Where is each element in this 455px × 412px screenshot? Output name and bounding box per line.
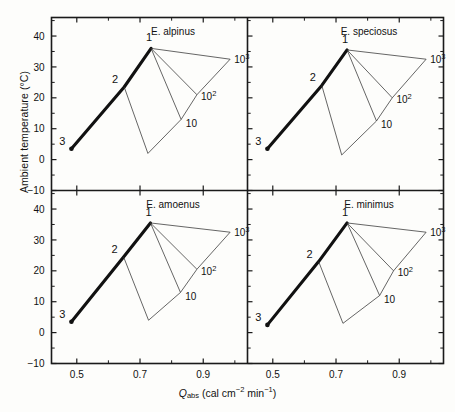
wind-label-10e2: 102 [396, 92, 411, 105]
y-axis-tick-label: 0 [39, 154, 45, 165]
endpoint-dot [265, 146, 270, 151]
y-axis-label: Ambient temperature (°C) [18, 52, 30, 212]
panel-amoenus: E. amoenus32110102103 [59, 199, 249, 325]
series-fan-1-to-10 [347, 223, 380, 296]
wind-label-10: 10 [185, 291, 197, 302]
y-axis-tick-label: 40 [33, 204, 45, 215]
y-axis-tick-label: 30 [33, 235, 45, 246]
series-metabolic-boundary [71, 223, 150, 322]
panel-alpinus: E. alpinus32110102103 [59, 26, 249, 154]
series-fan-1-to-10squared [150, 223, 196, 269]
endpoint-dot [69, 146, 74, 151]
node-label-1: 1 [146, 31, 152, 43]
series-fan-1-to-10cubed [151, 48, 230, 59]
series-fan-1-to-10squared [347, 50, 392, 98]
node-label-2: 2 [112, 73, 118, 85]
y-axis-tick-label: 40 [33, 31, 45, 42]
node-label-2: 2 [111, 243, 117, 255]
x-axis-units-mid: min [244, 387, 264, 399]
panel-title: E. alpinus [151, 26, 195, 37]
series-lower-boundary [322, 59, 426, 155]
node-label-3: 3 [255, 311, 261, 323]
x-axis-tick-label: 0.7 [133, 369, 147, 380]
panel-minimus: E. minimus32110102103 [255, 199, 445, 328]
endpoint-dot [265, 323, 270, 328]
series-lower-boundary [124, 232, 231, 320]
node-label-2: 2 [307, 248, 313, 260]
series-fan-1-to-10 [151, 48, 181, 119]
panel-title: E. minimus [344, 199, 393, 210]
y-axis-tick-label: 20 [33, 92, 45, 103]
x-axis-tick-label: 0.5 [266, 369, 280, 380]
x-axis-tick-label: 0.9 [392, 369, 406, 380]
node-label-3: 3 [255, 135, 261, 147]
series-lower-boundary [319, 232, 426, 323]
panel-title: E. speciosus [341, 26, 398, 37]
endpoint-dot [69, 319, 74, 324]
series-metabolic-boundary [71, 48, 151, 148]
y-axis-tick-label: 20 [33, 265, 45, 276]
x-axis-tick-label: 0.5 [70, 369, 84, 380]
node-label-1: 1 [342, 206, 348, 218]
wind-label-10: 10 [384, 294, 396, 305]
x-axis-units-post: ) [273, 387, 277, 399]
series-lower-boundary [124, 59, 230, 153]
y-axis-tick-label: −10 [28, 358, 45, 369]
series-fan-1-to-10cubed [347, 50, 426, 59]
series-fan-1-to-10 [347, 50, 376, 121]
series-fan-1-to-10squared [347, 223, 393, 271]
wind-label-10: 10 [186, 118, 198, 129]
wind-label-10e2: 102 [201, 89, 216, 102]
series-fan-1-to-10cubed [150, 223, 230, 232]
x-axis-units-sup2: −1 [264, 385, 273, 394]
figure-root: 403020100−10403020100−100.50.70.90.50.70… [0, 0, 455, 412]
x-axis-label-symbol: Q [179, 387, 187, 399]
y-axis-tick-label: −10 [28, 185, 45, 196]
wind-label-10e2: 102 [201, 264, 216, 277]
panel-speciosus: E. speciosus32110102103 [255, 26, 445, 155]
climate-space-plot: 403020100−10403020100−100.50.70.90.50.70… [0, 0, 455, 412]
series-fan-1-to-10 [150, 223, 180, 293]
x-axis-label: Qabs (cal cm−2 min−1) [0, 385, 455, 400]
node-label-1: 1 [145, 206, 151, 218]
series-fan-1-to-10cubed [347, 223, 426, 232]
node-label-1: 1 [342, 33, 348, 45]
wind-label-10: 10 [381, 119, 393, 130]
wind-label-10e2: 102 [398, 265, 413, 278]
y-axis-tick-label: 10 [33, 296, 45, 307]
y-axis-tick-label: 30 [33, 62, 45, 73]
node-label-3: 3 [59, 135, 65, 147]
node-label-2: 2 [310, 71, 316, 83]
series-metabolic-boundary [267, 50, 347, 149]
x-axis-units-pre: (cal cm [199, 387, 236, 399]
series-fan-1-to-10squared [151, 48, 197, 94]
y-axis-tick-label: 10 [33, 123, 45, 134]
y-axis-tick-label: 0 [39, 327, 45, 338]
node-label-3: 3 [59, 308, 65, 320]
x-axis-tick-label: 0.7 [329, 369, 343, 380]
series-metabolic-boundary [267, 223, 347, 325]
x-axis-tick-label: 0.9 [196, 369, 210, 380]
x-axis-label-subscript: abs [187, 391, 199, 400]
panel-title: E. amoenus [146, 199, 199, 210]
